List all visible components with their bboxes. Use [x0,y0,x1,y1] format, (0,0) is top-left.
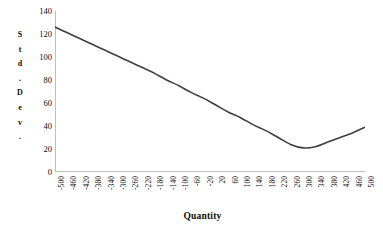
x-axis-tick-labels: -500-460-420-380-340-300-260-220-180-140… [55,172,365,208]
y-axis-title-char: D [13,86,27,101]
std-dev-vs-quantity-chart: S t d . D e v . 020406080100120140 -500-… [0,0,383,233]
x-tick-label: -380 [95,176,103,190]
x-tick-label: 260 [294,176,302,187]
y-tick-label: 0 [26,168,52,177]
x-tick-label: -140 [170,176,178,190]
y-tick-label: 100 [26,53,52,62]
x-tick-label: -180 [157,176,165,190]
x-tick-label: 380 [331,176,339,187]
x-tick-label: 100 [244,176,252,187]
y-tick-label: 140 [26,7,52,16]
x-tick-label: -220 [145,176,153,190]
x-tick-label: 460 [356,176,364,187]
x-tick-label: 500 [368,176,376,187]
x-tick-label: 220 [281,176,289,187]
x-tick-label: -60 [194,176,202,186]
y-tick-label: 120 [26,30,52,39]
x-tick-label: 180 [269,176,277,187]
x-tick-label: -460 [70,176,78,190]
y-tick-label: 80 [26,76,52,85]
y-axis-title-char: t [13,43,27,58]
x-axis-title: Quantity [0,211,383,221]
x-tick-label: 340 [318,176,326,187]
y-axis-title-char: . [13,72,27,87]
y-axis-title-char: v [13,116,27,131]
x-tick-label: 300 [306,176,314,187]
y-axis-title-char: e [13,101,27,116]
plot-area [55,11,365,172]
x-tick-label: -20 [207,176,215,186]
x-tick-label: 60 [232,176,240,184]
y-axis-title-char: . [13,130,27,145]
x-tick-label: -420 [83,176,91,190]
line-chart-svg [55,11,365,172]
x-tick-label: -340 [108,176,116,190]
y-axis-title-char: d [13,57,27,72]
x-tick-label: -100 [182,176,190,190]
y-tick-label: 40 [26,122,52,131]
x-tick-label: -260 [132,176,140,190]
x-tick-label: -300 [120,176,128,190]
x-tick-label: 20 [219,176,227,184]
y-axis-title: S t d . D e v . [13,28,27,145]
x-tick-label: 140 [256,176,264,187]
y-tick-label: 20 [26,145,52,154]
data-series-line [55,27,365,148]
x-tick-label: -500 [58,176,66,190]
x-tick-label: 420 [343,176,351,187]
y-axis-title-char: S [13,28,27,43]
y-tick-label: 60 [26,99,52,108]
y-axis-tick-labels: 020406080100120140 [26,0,52,233]
